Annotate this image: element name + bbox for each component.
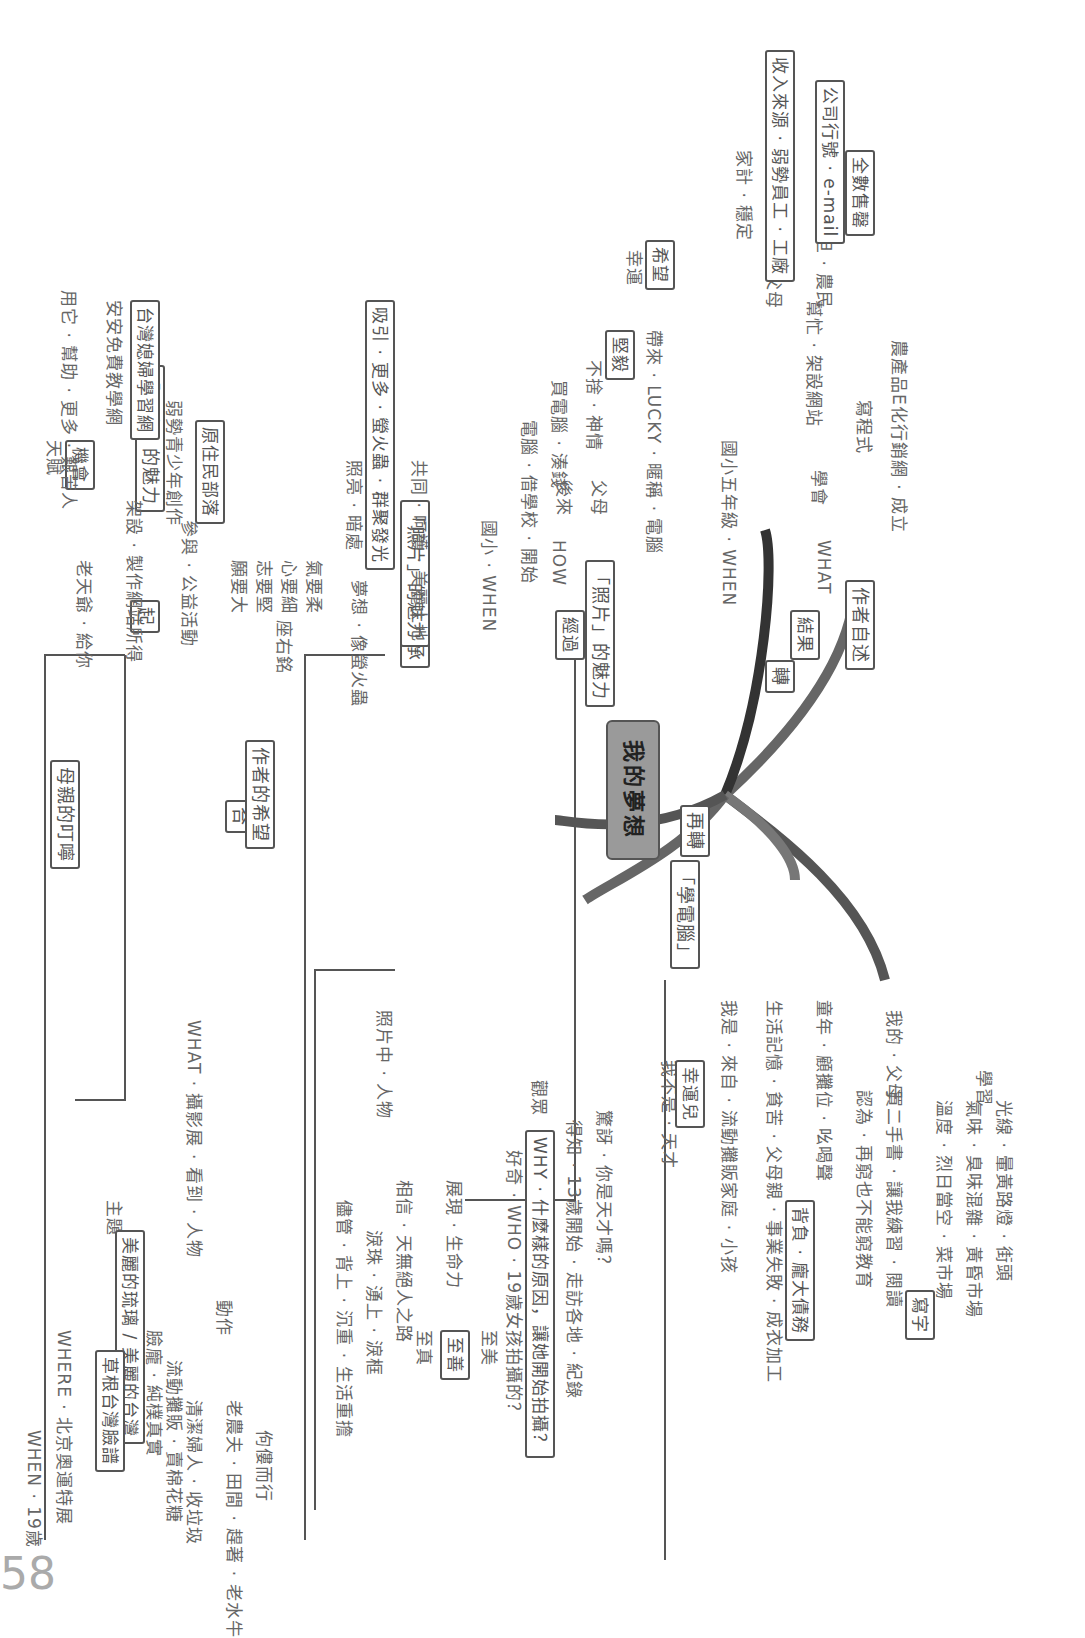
zhuan-audience-item: 好奇 · WHO · 19歲女孩拍攝的？ xyxy=(503,1150,525,1420)
qi-item-box[interactable]: 草根台灣臉譜 xyxy=(95,1350,125,1472)
zaizhuan-process-item: 幸運 xyxy=(623,250,645,286)
zhuan-author-item: 認為 · 再窮也不能窮教育 xyxy=(853,1090,875,1289)
zaizhuan-result-item: 農產品E化行銷網 · 成立 xyxy=(888,340,910,533)
cheng-item: 展現 · 生命力 xyxy=(443,1180,465,1289)
he-mother-label: 母親的叮嚀 xyxy=(55,767,76,862)
qi-item: 清潔婦人 · 收垃圾 xyxy=(183,1400,205,1545)
zhuan-author-item: 光線 · 暈黃路燈 · 街頭 xyxy=(993,1100,1015,1282)
zaizhuan-process-item: 父母 xyxy=(588,480,610,516)
zaizhuan-process-item: 買電腦 · 湊錢 xyxy=(548,380,570,489)
zaizhuan-result-item: 國小五年級 · WHEN xyxy=(718,440,740,606)
he-hope-item-box[interactable]: 吸引 · 更多 · 螢火蟲 · 群聚發光 xyxy=(365,300,395,570)
he-hope-item: 願要大 xyxy=(228,560,250,614)
branch-zaizhuan[interactable]: 再轉 xyxy=(680,805,710,857)
qi-item: 流動攤販 · 賣棉花糖 xyxy=(163,1360,185,1523)
he-hope-item-box[interactable]: 台灣媳婦學習網 xyxy=(130,300,160,440)
he-author-hope[interactable]: 作者的希望 xyxy=(245,740,275,849)
zaizhuan-result[interactable]: 結果 xyxy=(790,610,820,660)
zaizhuan-process[interactable]: 經過 xyxy=(555,610,585,660)
zaizhuan-process-item: 不捨 · 神情 xyxy=(583,360,605,451)
zaizhuan-process-item: HOW xyxy=(548,540,570,586)
he-hope-item: 共同 · 呵護 · 美麗土地 xyxy=(408,460,430,642)
zhuan-audience-label: 觀眾 xyxy=(528,1080,550,1116)
branch-zaizhuan-label: 再轉 xyxy=(685,812,706,850)
he-mother-item: 用它 · 幫助 · 更多 · 艱苦人 xyxy=(58,290,80,510)
zhuan-audience-item: 驚訝 · 你是天才嗎？ xyxy=(593,1110,615,1273)
zhuan-author-item-box[interactable]: 寫字 xyxy=(905,1290,935,1340)
cheng-item: 儘管 · 背上 · 沉重 · 生活重擔 xyxy=(333,1200,355,1438)
branch-zaizhuan-child[interactable]: 「學電腦」 xyxy=(670,860,700,969)
zaizhuan-result-item-box[interactable]: 收入來源 · 弱勢員工 · 工廠 xyxy=(765,50,795,282)
he-author-hope-label: 作者的希望 xyxy=(250,747,271,842)
branch-zhuan[interactable]: 轉 xyxy=(765,660,795,693)
branch-zaizhuan-child-label: 「學電腦」 xyxy=(675,867,696,962)
qi-item: WHERE · 北京奧運特展 xyxy=(53,1330,75,1525)
branch-zhuan-child-author-label: 作者自述 xyxy=(850,587,871,663)
zhuan-author-item: 我的 · 父母 xyxy=(883,1010,905,1101)
qi-item: 老農夫 · 田間 · 趕著 · 老水牛 xyxy=(223,1400,245,1638)
qi-item: 佝僂而行 xyxy=(253,1430,275,1502)
cheng-path: 照片中 · 人物 xyxy=(373,1010,395,1119)
zhuan-author-item: 氣味 · 臭味混雜 · 黃昏市場 xyxy=(963,1100,985,1318)
root-node[interactable]: 我的夢想 xyxy=(606,720,660,860)
zaizhuan-process-item: 國小 · WHEN xyxy=(478,520,500,632)
he-hope-item: 架設 · 製作網站所得 xyxy=(123,500,145,663)
zaizhuan-result-item: 學會 xyxy=(808,470,830,506)
he-hope-item: 弱勢青少年創作 xyxy=(163,400,185,526)
zaizhuan-result-item: 寫程式 xyxy=(853,400,875,454)
he-mother-item: 老天爺 · 給你 xyxy=(73,560,95,669)
branch-zhuan-child-photo[interactable]: 「照片」的魅力 xyxy=(585,560,615,707)
he-hope-item: 安安免費教學網 xyxy=(103,300,125,426)
he-mother[interactable]: 母親的叮嚀 xyxy=(50,760,80,869)
he-hope-item-box[interactable]: 原住民部落 xyxy=(195,420,225,524)
he-hope-item: 氣要柔 xyxy=(303,560,325,614)
zaizhuan-result-item-box[interactable]: 全數售罄 xyxy=(845,150,875,236)
branch-zhuan-child-photo-label: 「照片」的魅力 xyxy=(590,567,611,700)
qi-item: 臉龐 · 純樸真實 xyxy=(143,1330,165,1457)
zaizhuan-result-item: 幫忙 · 架設網站 xyxy=(803,300,825,427)
page-number: 58 xyxy=(0,1548,56,1599)
qi-item: 動作 xyxy=(213,1300,235,1336)
zhuan-author-item: 溫度 · 烈日當空 · 菜市場 xyxy=(933,1100,955,1300)
cheng-item: 相信 · 天無絕人之路 xyxy=(393,1180,415,1343)
he-hope-item: 夢想 · 像螢火蟲 xyxy=(348,580,370,707)
zhuan-author-item-box[interactable]: 背負 · 龐大債務 xyxy=(785,1200,815,1341)
branch-zhuan-child-author[interactable]: 作者自述 xyxy=(845,580,875,670)
he-hope-item: 照亮 · 暗處 xyxy=(343,460,365,551)
zaizhuan-result-item-box[interactable]: 公司行號 · e-mail xyxy=(815,80,845,244)
zhuan-audience-item-box[interactable]: WHY · 什麼樣的原因，讓她開始拍攝？ xyxy=(525,1130,555,1458)
qi-item: WHEN · 19歲 xyxy=(23,1430,45,1548)
he-hope-item: 參與 · 公益活動 xyxy=(178,520,200,647)
zaizhuan-process-item: 帶來 · LUCKY · 暱稱 · 電腦 xyxy=(643,330,665,555)
zhuan-author-item: 生活記憶 · 貧苦 · 父母親 · 事業失敗 · 成衣加工 xyxy=(763,1000,785,1383)
he-hope-item: 心要細 xyxy=(278,560,300,614)
zaizhuan-result-item: 家計 · 穩定 xyxy=(733,150,755,241)
he-hope-item: 座右銘 xyxy=(273,620,295,674)
root-label: 我的夢想 xyxy=(621,740,646,840)
zaizhuan-process-item: 電腦 · 借學校 · 開始 xyxy=(518,420,540,584)
zhuan-author-item: 我是 · 來自 · 流動攤販家庭 · 小孩 xyxy=(718,1000,740,1274)
cheng-item: 淚珠 · 湧上 · 淚框 xyxy=(363,1230,385,1376)
qi-item: WHAT · 攝影展 · 看到 · 人物 xyxy=(183,1020,205,1258)
cheng-item: 至美 xyxy=(478,1330,500,1366)
zhuan-author-item-box[interactable]: 幸運兒 xyxy=(675,1060,705,1128)
zaizhuan-process-item-box[interactable]: 堅毅 xyxy=(605,330,635,380)
cheng-item: 至真 xyxy=(413,1330,435,1366)
cheng-item-box[interactable]: 至善 xyxy=(440,1330,470,1380)
zhuan-author-item: 買二手書 · 讓我練習 · 閱讀 xyxy=(883,1090,905,1308)
he-hope-item: 志要堅 xyxy=(253,560,275,614)
branch-zhuan-label: 轉 xyxy=(770,667,791,686)
zhuan-author-item: 童年 · 顧攤位 · 吆喝聲 xyxy=(813,1000,835,1182)
zaizhuan-process-item-box[interactable]: 希望 xyxy=(645,240,675,290)
zaizhuan-result-item: WHAT xyxy=(813,540,835,594)
zhuan-audience-item: 得知 · 13歲開始 · 走訪各地 · 紀錄 xyxy=(563,1120,585,1399)
